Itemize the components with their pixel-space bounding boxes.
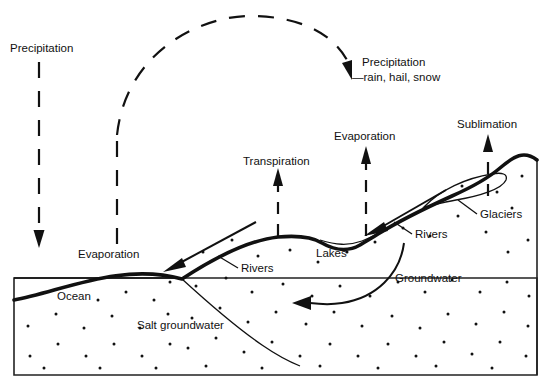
water-cycle-diagram: Precipitation Precipitation —rain, hail,…: [0, 0, 552, 391]
label-groundwater: Groundwater: [395, 272, 462, 284]
ground-block-frame: [14, 278, 537, 375]
label-rivers-upper: Rivers: [415, 228, 448, 240]
transpiration-arrowhead: [273, 168, 283, 186]
label-precipitation-right: Precipitation: [362, 56, 425, 68]
label-rivers-lower: Rivers: [241, 262, 274, 274]
river-flow-upper-line: [380, 190, 446, 228]
atmospheric-transport-arc: [117, 16, 348, 135]
label-lakes: Lakes: [316, 247, 347, 259]
label-transpiration: Transpiration: [243, 155, 310, 167]
label-ocean: Ocean: [57, 290, 91, 302]
precipitation-left-arrowhead: [34, 230, 45, 248]
glaciers-leader-line: [458, 200, 477, 214]
rivers-lower-leader-line: [218, 256, 238, 268]
label-glaciers: Glaciers: [480, 208, 522, 220]
river-flow-lower-arrowhead: [163, 258, 186, 272]
diagram-canvas: Precipitation Precipitation —rain, hail,…: [0, 0, 552, 391]
label-evaporation-land: Evaporation: [334, 130, 395, 142]
precipitation-arrival-arrowhead: [342, 60, 352, 80]
rivers-upper-leader-line: [394, 222, 412, 234]
groundwater-flow-arrowhead: [292, 296, 311, 310]
label-precipitation-left: Precipitation: [10, 42, 73, 54]
label-evaporation-ocean: Evaporation: [78, 248, 139, 260]
evaporation-land-arrowhead: [361, 146, 371, 164]
sublimation-arrowhead: [483, 134, 493, 152]
label-sublimation: Sublimation: [457, 118, 517, 130]
label-salt-groundwater: Salt groundwater: [137, 319, 224, 331]
label-precipitation-right-sub: —rain, hail, snow: [352, 71, 441, 83]
